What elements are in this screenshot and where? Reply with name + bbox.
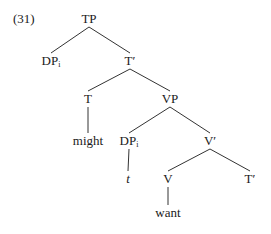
node-label: VP [162, 91, 179, 106]
tree-node-tbar1: T′ [125, 54, 136, 68]
node-label: T′ [125, 53, 136, 68]
node-subscript: i [58, 60, 60, 69]
node-label: TP [81, 11, 96, 26]
tree-node-dp2: DPi [120, 134, 139, 152]
tree-branches [0, 0, 271, 234]
node-label: might [73, 133, 103, 148]
tree-node-vbar: V′ [204, 134, 216, 148]
branch-tbar1-t [88, 69, 130, 91]
node-subscript: i [136, 140, 138, 149]
tree-node-t: t [126, 172, 130, 186]
node-label: T [84, 91, 92, 106]
node-label: t [126, 171, 130, 186]
branch-vp-dp2 [129, 107, 170, 133]
branch-tbar1-vp [130, 69, 170, 91]
branch-vp-vbar [170, 107, 210, 133]
branch-vbar-v [168, 149, 210, 171]
branch-tp-dp1 [51, 27, 89, 53]
tree-node-dp1: DPi [42, 54, 61, 72]
node-label: DP [120, 133, 137, 148]
branch-tp-tbar1 [89, 27, 130, 53]
tree-node-t: T [84, 92, 92, 106]
node-label: V [163, 171, 172, 186]
tree-node-might: might [73, 134, 103, 148]
node-label: DP [42, 53, 59, 68]
tree-node-tp: TP [81, 12, 96, 26]
branch-vbar-tbar2 [210, 149, 250, 171]
branch-dp2-t [128, 149, 129, 171]
tree-node-tbar2: T′ [245, 172, 256, 186]
tree-node-v: V [163, 172, 172, 186]
node-label: V′ [204, 133, 216, 148]
node-label: want [155, 205, 180, 220]
tree-node-vp: VP [162, 92, 179, 106]
node-label: T′ [245, 171, 256, 186]
tree-node-want: want [155, 206, 180, 220]
